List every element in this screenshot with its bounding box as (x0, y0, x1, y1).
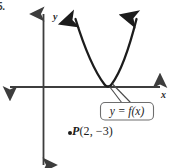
callout-label-text: y = f(x) (109, 105, 145, 118)
coordinate-plane-graphic: y x y = f(x) (0, 0, 171, 168)
callout-box: y = f(x) (101, 103, 154, 121)
point-p-coordinates: (2, −3) (79, 124, 112, 138)
graph-figure: 5. y x (0, 0, 171, 168)
parabola-curve (76, 19, 137, 87)
y-axis-label: y (52, 11, 58, 22)
x-axis-label: x (160, 89, 166, 100)
point-p-label: P(2, −3) (72, 124, 113, 139)
